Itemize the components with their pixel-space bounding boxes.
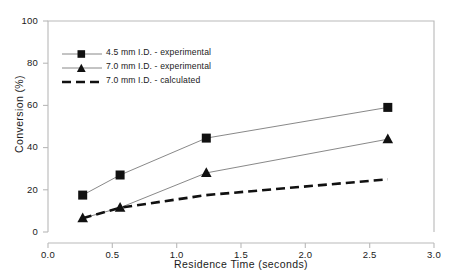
y-tick-label-0: 0 [8, 226, 38, 237]
series-7p0mm-calculated [83, 179, 388, 218]
legend-item-4p5mm-experimental: 4.5 mm I.D. - experimental [62, 46, 211, 58]
y-tick-label-20: 20 [8, 184, 38, 195]
series-4p5mm-experimental [78, 103, 392, 200]
chart-plot-area [0, 0, 451, 278]
legend-marker-square-icon [62, 46, 102, 58]
x-axis-ticks [48, 243, 434, 248]
legend-item-7p0mm-experimental: 7.0 mm I.D. - experimental [62, 60, 211, 72]
legend-item-7p0mm-calculated: 7.0 mm I.D. - calculated [62, 74, 211, 86]
chart-legend: 4.5 mm I.D. - experimental 7.0 mm I.D. -… [62, 46, 211, 88]
y-axis-title: Conversion (%) [13, 54, 25, 174]
y-axis-ticks [43, 21, 48, 232]
legend-marker-triangle-icon [62, 60, 102, 72]
y-tick-label-100: 100 [8, 15, 38, 26]
legend-marker-dashed-line-icon [62, 74, 102, 86]
x-axis-title: Residence Time (seconds) [48, 258, 434, 270]
legend-label-7p0mm-calculated: 7.0 mm I.D. - calculated [106, 75, 200, 85]
legend-label-4p5mm-experimental: 4.5 mm I.D. - experimental [106, 47, 211, 57]
series-7p0mm-experimental [77, 134, 393, 223]
chart-figure: 100 80 60 40 20 0 0.0 0.5 1.0 1.5 2.0 2.… [0, 0, 451, 278]
legend-label-7p0mm-experimental: 7.0 mm I.D. - experimental [106, 61, 211, 71]
